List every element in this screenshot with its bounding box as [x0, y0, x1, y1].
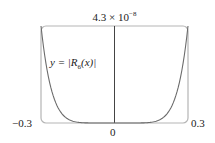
curve-label: y = |R6(x)|	[50, 56, 96, 73]
x-max-label: 0.3	[191, 117, 205, 129]
x-zero-label: 0	[110, 126, 116, 138]
y-max-label: 4.3 × 10−8	[0, 8, 215, 23]
x-min-label: −0.3	[12, 117, 32, 129]
